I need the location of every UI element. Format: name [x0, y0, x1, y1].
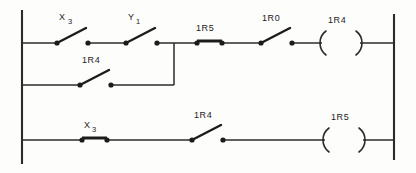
- ladder-logic-diagram: X 3 Y 1 1R5 1R0 1R4 1R4: [0, 0, 416, 173]
- contact-x3-rung2-label-subscript: 3: [92, 125, 96, 134]
- contact-1r0-blade: [261, 28, 290, 43]
- contact-1r5-rung1-label: 1R5: [196, 23, 214, 33]
- ladder-diagram-canvas: X 3 Y 1 1R5 1R0 1R4 1R4: [0, 0, 416, 173]
- contact-y1-label: Y: [128, 12, 135, 22]
- contact-y1-blade: [126, 28, 155, 43]
- contact-y1-node-right: [154, 40, 159, 45]
- contact-y1-label-subscript: 1: [136, 17, 140, 26]
- contact-1r4-branch-label: 1R4: [82, 55, 100, 65]
- contact-1r4-branch-blade: [80, 70, 109, 85]
- contact-x3-rung2-label: X: [84, 120, 91, 130]
- contact-1r4-rung2-node-right: [220, 137, 225, 142]
- contact-x3-label: X: [59, 12, 66, 22]
- coil-1r5-label: 1R5: [331, 112, 349, 122]
- contact-1r4-rung2-label: 1R4: [194, 110, 212, 120]
- contact-x3-label-subscript: 3: [68, 17, 72, 26]
- contact-1r4-rung2-blade: [192, 125, 221, 140]
- contact-1r0-node-right: [289, 40, 294, 45]
- contact-x3-node-right: [85, 40, 90, 45]
- contact-1r0-label: 1R0: [262, 13, 280, 23]
- contact-1r4-branch-node-right: [108, 82, 113, 87]
- coil-1r4-label: 1R4: [328, 15, 346, 25]
- contact-x3-blade: [57, 28, 86, 43]
